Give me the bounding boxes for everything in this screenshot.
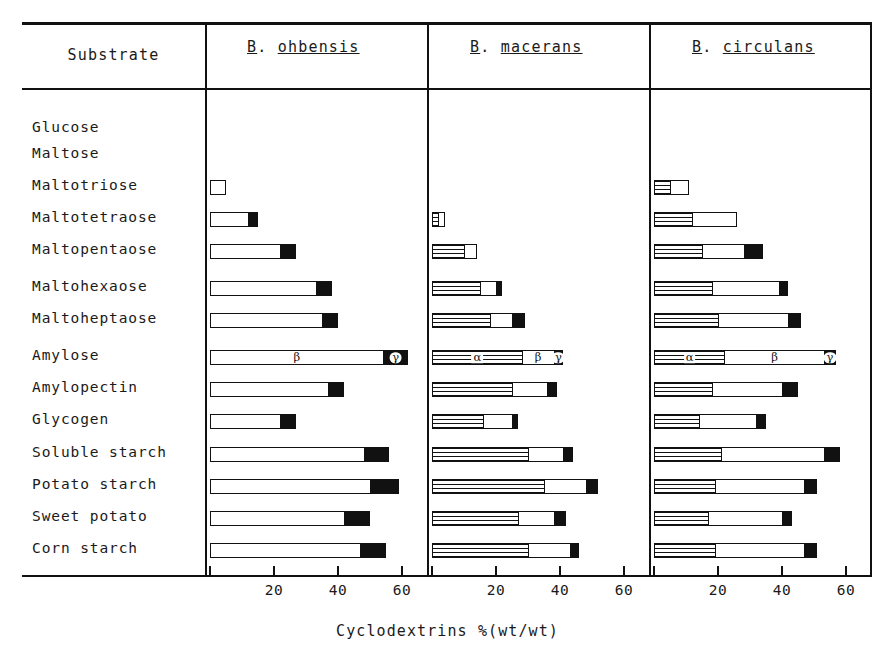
stacked-bar bbox=[654, 511, 792, 526]
stacked-bar bbox=[210, 313, 338, 328]
bar-segment-gamma bbox=[554, 511, 567, 526]
axis-tick-label: 40 bbox=[551, 582, 570, 598]
stacked-bar bbox=[654, 479, 817, 494]
stacked-bar bbox=[654, 414, 766, 429]
cyclodextrin-figure: Substrate B. ohbensis B. macerans B. cir… bbox=[0, 0, 895, 668]
bar-segment-gamma bbox=[328, 382, 344, 397]
substrate-label: Maltohexaose bbox=[32, 279, 148, 294]
stacked-bar bbox=[432, 414, 518, 429]
substrate-label: Amylopectin bbox=[32, 380, 138, 395]
bar-segment-gamma bbox=[370, 479, 399, 494]
stacked-bar bbox=[210, 543, 386, 558]
bar-segment-beta bbox=[210, 414, 280, 429]
stacked-bar bbox=[432, 479, 598, 494]
bar-segment-gamma: γ bbox=[383, 350, 409, 365]
column-header-species-0: B. ohbensis bbox=[247, 38, 360, 56]
axis-tick bbox=[401, 566, 403, 575]
bar-segment-alpha bbox=[654, 180, 670, 195]
substrate-label: Maltopentaose bbox=[32, 242, 157, 257]
bar-segment-beta bbox=[544, 479, 586, 494]
stacked-bar bbox=[432, 543, 579, 558]
bar-segment-alpha bbox=[654, 447, 721, 462]
bar-segment-gamma bbox=[586, 479, 599, 494]
stacked-bar: αβγ bbox=[654, 350, 836, 365]
stacked-bar bbox=[432, 382, 557, 397]
bar-segment-beta bbox=[210, 479, 370, 494]
bar-segment-gamma: γ bbox=[824, 350, 837, 365]
bar-segment-alpha bbox=[654, 212, 692, 227]
bar-segment-beta bbox=[528, 543, 570, 558]
bar-segment-beta bbox=[708, 511, 782, 526]
bar-segment-gamma bbox=[779, 281, 789, 296]
axis-tick bbox=[337, 566, 339, 575]
species-dot: . bbox=[257, 38, 277, 56]
segment-annotation-beta: β bbox=[769, 352, 780, 364]
bar-segment-alpha bbox=[432, 447, 528, 462]
bar-segment-alpha bbox=[654, 543, 715, 558]
stacked-bar bbox=[432, 244, 477, 259]
axis-tick bbox=[845, 566, 847, 575]
species-dot: . bbox=[702, 38, 722, 56]
table-bottom-rule bbox=[22, 575, 872, 577]
substrate-label: Maltose bbox=[32, 146, 99, 161]
bar-segment-beta bbox=[718, 313, 788, 328]
bar-segment-beta bbox=[464, 244, 477, 259]
bar-segment-alpha bbox=[654, 414, 699, 429]
bar-segment-beta bbox=[692, 212, 737, 227]
bar-segment-gamma bbox=[248, 212, 258, 227]
bar-segment-gamma: γ bbox=[554, 350, 564, 365]
bar-segment-beta bbox=[512, 382, 547, 397]
bar-segment-beta bbox=[210, 382, 328, 397]
axis-tick-label: 60 bbox=[393, 582, 412, 598]
table-top-rule bbox=[22, 22, 872, 25]
bar-segment-beta bbox=[210, 313, 322, 328]
bar-segment-beta bbox=[210, 447, 364, 462]
axis-tick bbox=[623, 566, 625, 575]
bar-segment-gamma bbox=[563, 447, 573, 462]
axis-tick-zero bbox=[209, 566, 211, 575]
bar-segment-beta: β bbox=[522, 350, 554, 365]
column-header-species-2: B. circulans bbox=[692, 38, 815, 56]
bar-segment-alpha bbox=[432, 244, 464, 259]
stacked-bar bbox=[210, 180, 226, 195]
stacked-bar bbox=[654, 447, 840, 462]
panel-divider-1 bbox=[205, 24, 207, 576]
bar-segment-beta: β bbox=[210, 350, 383, 365]
substrate-label: Maltotriose bbox=[32, 178, 138, 193]
species-initial: B bbox=[247, 38, 257, 56]
bar-segment-beta bbox=[210, 281, 316, 296]
bar-segment-gamma bbox=[782, 382, 798, 397]
bar-segment-alpha bbox=[432, 543, 528, 558]
stacked-bar bbox=[210, 212, 258, 227]
bar-segment-beta bbox=[210, 180, 226, 195]
substrate-label: Glucose bbox=[32, 120, 99, 135]
stacked-bar: αβγ bbox=[432, 350, 563, 365]
segment-annotation-gamma: γ bbox=[824, 352, 837, 364]
bar-segment-beta bbox=[210, 511, 344, 526]
bar-segment-alpha bbox=[654, 313, 718, 328]
bar-segment-beta bbox=[702, 244, 744, 259]
segment-annotation-alpha: α bbox=[471, 352, 483, 364]
axis-tick-label: 40 bbox=[773, 582, 792, 598]
species-initial: B bbox=[692, 38, 702, 56]
column-header-species-1: B. macerans bbox=[470, 38, 583, 56]
axis-tick bbox=[717, 566, 719, 575]
stacked-bar bbox=[432, 313, 525, 328]
column-header-substrate: Substrate bbox=[22, 46, 205, 64]
bar-segment-beta bbox=[699, 414, 757, 429]
bar-segment-alpha: α bbox=[432, 350, 522, 365]
segment-annotation-gamma: γ bbox=[552, 352, 565, 364]
bar-segment-gamma bbox=[782, 511, 792, 526]
stacked-bar bbox=[432, 281, 502, 296]
stacked-bar: βγ bbox=[210, 350, 408, 365]
bar-segment-beta bbox=[490, 313, 512, 328]
substrate-label: Soluble starch bbox=[32, 445, 167, 460]
stacked-bar bbox=[210, 382, 344, 397]
bar-segment-beta bbox=[210, 543, 360, 558]
axis-tick bbox=[273, 566, 275, 575]
bar-segment-gamma bbox=[496, 281, 502, 296]
substrate-label: Maltoheptaose bbox=[32, 311, 157, 326]
stacked-bar bbox=[654, 382, 798, 397]
bar-segment-gamma bbox=[547, 382, 557, 397]
bar-segment-gamma bbox=[512, 414, 518, 429]
